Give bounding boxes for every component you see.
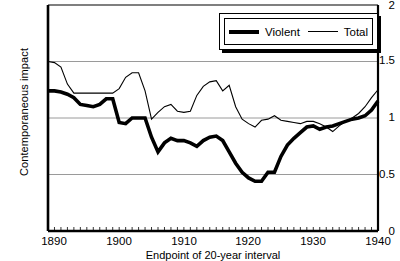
legend: Violent Total xyxy=(219,13,378,50)
legend-swatch-total-icon xyxy=(308,31,338,32)
legend-label-total: Total xyxy=(344,26,368,38)
legend-label-violent: Violent xyxy=(265,26,300,38)
legend-item-total: Total xyxy=(308,26,368,38)
legend-swatch-violent-icon xyxy=(229,30,259,34)
series-line-total xyxy=(48,62,378,132)
legend-item-violent: Violent xyxy=(229,26,300,38)
series-line-violent xyxy=(48,91,378,181)
legend-inner: Violent Total xyxy=(224,18,373,45)
gridlines xyxy=(48,62,378,175)
